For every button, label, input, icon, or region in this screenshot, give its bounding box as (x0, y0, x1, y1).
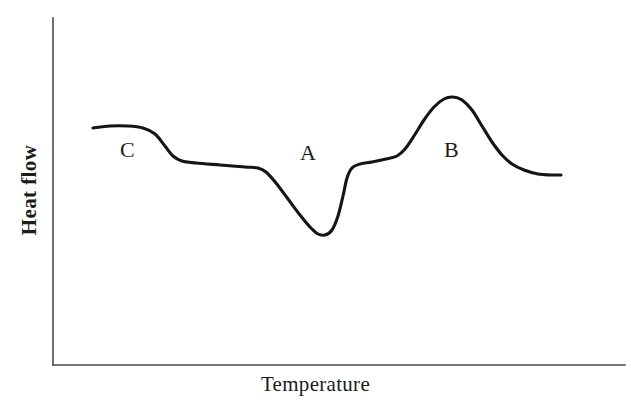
annotation-label-b: B (444, 139, 459, 161)
chart-canvas (0, 0, 631, 409)
y-axis-label-container: Heat flow (14, 95, 44, 285)
y-axis-label: Heat flow (17, 145, 42, 236)
dsc-thermogram-figure: C A B Temperature Heat flow (0, 0, 631, 409)
heat-flow-curve (93, 97, 561, 235)
annotation-label-c: C (120, 139, 135, 161)
x-axis-label: Temperature (0, 372, 631, 397)
annotation-label-a: A (300, 142, 316, 164)
